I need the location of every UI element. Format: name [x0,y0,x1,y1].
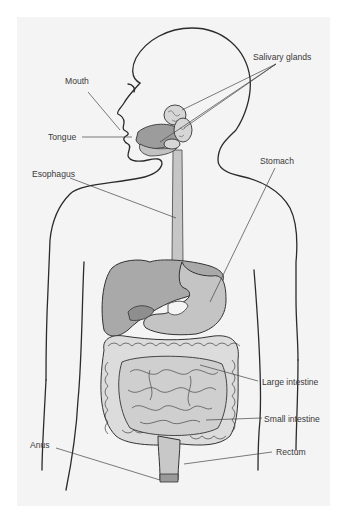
label-anus: Anus [30,440,50,450]
anus [160,474,178,482]
label-tongue: Tongue [48,132,76,142]
label-large-intestine: Large intestine [262,377,319,387]
rectum [158,436,180,480]
label-esophagus: Esophagus [32,169,75,179]
label-salivary-glands: Salivary glands [253,52,311,62]
label-small-intestine: Small intestine [264,414,320,424]
label-stomach: Stomach [260,156,294,166]
label-rectum: Rectum [276,447,306,457]
esophagus [172,150,183,262]
digestive-system-diagram: Salivary glands Mouth Tongue Esophagus S… [0,0,346,527]
label-mouth: Mouth [65,76,89,86]
